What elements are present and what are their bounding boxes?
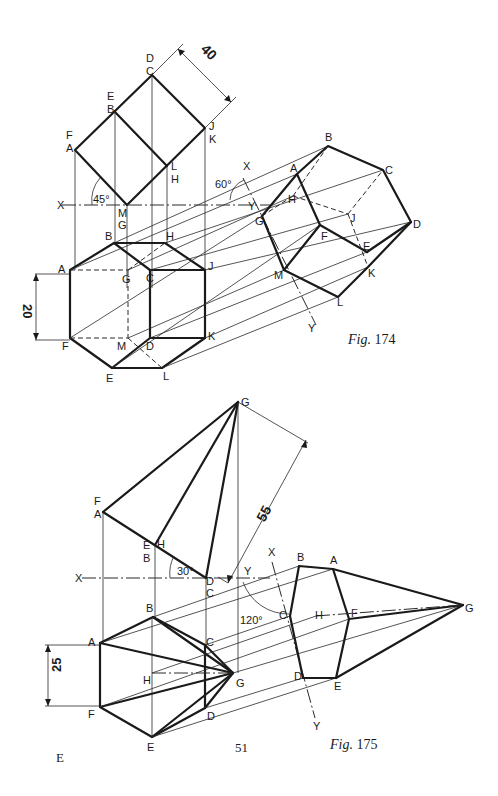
label: F — [351, 607, 358, 619]
label: F — [62, 340, 69, 352]
label: H — [143, 674, 151, 686]
dimension-20: 20 — [20, 304, 35, 318]
page-number: 51 — [235, 740, 248, 755]
x1-label: X — [268, 546, 276, 558]
x-label: X — [75, 572, 83, 584]
label: K — [208, 330, 216, 342]
label: H — [166, 230, 174, 242]
y1-label: Y — [313, 720, 321, 732]
label: A — [290, 162, 298, 174]
angle-30: 30° — [177, 565, 194, 577]
label: K — [209, 133, 217, 145]
label: A — [58, 263, 66, 275]
label: H — [288, 193, 296, 205]
label: D — [146, 340, 154, 352]
label: C — [279, 609, 287, 621]
figure-175: G F A E B D C H 55 30° 120° X Y X Y A B … — [45, 396, 474, 753]
label: A — [94, 508, 102, 520]
label: E — [107, 90, 114, 102]
label: E — [363, 240, 370, 252]
label: B — [143, 552, 150, 564]
label: F — [88, 708, 95, 720]
fig175-labels: G F A E B D C H 55 30° 120° X Y X Y A B … — [49, 396, 474, 753]
label: D — [294, 670, 302, 682]
angle-120: 120° — [240, 614, 263, 626]
label: D — [206, 575, 214, 587]
dimension-25: 25 — [49, 658, 64, 672]
x-label: X — [57, 199, 65, 211]
label: D — [146, 52, 154, 64]
label: B — [325, 131, 332, 143]
label: A — [88, 636, 96, 648]
label: D — [207, 710, 215, 722]
label: J — [208, 260, 214, 272]
label: B — [105, 230, 112, 242]
label: M — [274, 269, 283, 281]
label: F — [321, 230, 328, 242]
label: K — [368, 267, 376, 279]
label: D — [413, 218, 421, 230]
label: C — [146, 65, 154, 77]
label: J — [350, 212, 356, 224]
label: B — [107, 103, 114, 115]
fig175-plan — [45, 617, 233, 737]
label: E — [334, 680, 341, 692]
fig175-projectors — [100, 566, 463, 737]
dimension-40: 40 — [198, 41, 220, 63]
angle-45: 45° — [93, 193, 110, 205]
label: E — [147, 741, 154, 753]
label: L — [171, 160, 177, 172]
fig174-caption: Fig. 174 — [347, 332, 395, 347]
dimension-55: 55 — [253, 503, 275, 524]
label: M — [117, 340, 126, 352]
label: M — [118, 207, 127, 219]
label: L — [163, 370, 169, 382]
label: J — [209, 120, 215, 132]
label: H — [171, 173, 179, 185]
label: G — [465, 602, 474, 614]
label: H — [315, 609, 323, 621]
label: B — [146, 602, 153, 614]
label: E — [143, 539, 150, 551]
fig175-x1y1-line — [272, 562, 315, 718]
label: G — [241, 396, 250, 408]
fig175-caption: Fig. 175 — [329, 737, 377, 752]
x1-label: X — [243, 160, 251, 172]
label: A — [330, 554, 338, 566]
label: H — [157, 538, 165, 550]
label: F — [94, 495, 101, 507]
label: F — [66, 129, 73, 141]
label: C — [146, 272, 154, 284]
label: E — [106, 372, 113, 384]
label: G — [255, 215, 264, 227]
label: A — [66, 142, 74, 154]
y-label: Y — [244, 565, 252, 577]
label: L — [337, 296, 343, 308]
y-label: Y — [248, 200, 256, 212]
label: G — [236, 677, 245, 689]
fig175-auxiliary — [290, 566, 463, 678]
page-marker: E — [56, 750, 64, 765]
label: B — [297, 551, 304, 563]
label: G — [118, 219, 127, 231]
technical-drawing-page: F A E B D C J K L H M G 40 45° 60° X Y X… — [0, 0, 498, 796]
label: C — [206, 587, 214, 599]
figure-174: F A E B D C J K L H M G 40 45° 60° X Y X… — [20, 41, 421, 384]
label: G — [122, 273, 131, 285]
label: C — [206, 636, 214, 648]
label: C — [385, 164, 393, 176]
angle-60: 60° — [215, 178, 232, 190]
y1-label: Y — [308, 322, 316, 334]
